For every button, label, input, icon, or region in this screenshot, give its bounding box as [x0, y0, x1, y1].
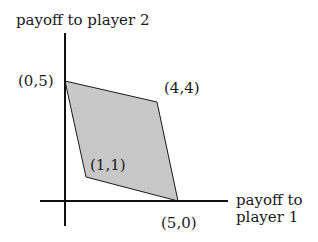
y-axis-label: payoff to player 2 [16, 11, 149, 29]
point-label-0-5: (0,5) [18, 72, 54, 90]
payoff-diagram: payoff to player 2 payoff to player 1 (0… [0, 0, 318, 242]
point-label-4-4: (4,4) [164, 79, 200, 97]
x-axis-label-line2: player 1 [236, 208, 298, 226]
x-axis-label-line1: payoff to [236, 191, 303, 209]
payoff-region [65, 81, 178, 201]
point-label-1-1: (1,1) [90, 156, 126, 174]
point-label-5-0: (5,0) [161, 214, 197, 232]
